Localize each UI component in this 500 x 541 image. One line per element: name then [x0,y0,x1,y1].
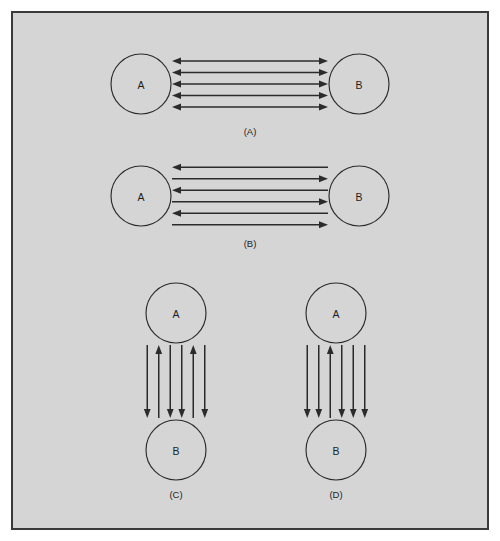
panel-d-bottom-node-label: B [332,445,339,457]
panel-a-caption: (A) [244,126,257,137]
panel-c-bottom-node-label: B [172,445,179,457]
panel-d-arrow-3-head-up-icon [327,345,334,354]
panel-c-caption: (C) [169,489,182,500]
panel-b-arrow-4-head-right-icon [319,198,328,205]
panel-d-caption: (D) [329,489,342,500]
panel-a: AB(A) [111,54,389,137]
panel-b-left-node-label: A [137,191,144,203]
panel-a-left-node-label: A [137,79,144,91]
panel-b-right-node-label: B [355,191,362,203]
panel-d-arrow-1-head-down-icon [304,409,311,418]
panel-d-arrow-4-head-down-icon [338,409,345,418]
panel-c-top-node-label: A [172,308,179,320]
panel-b-arrow-1-head-left-icon [172,164,181,171]
panel-c-arrow-1-head-down-icon [144,409,151,418]
panel-c-arrow-6-head-down-icon [201,409,208,418]
panel-a-arrow-5-head-left-icon [172,104,181,111]
panel-d-top-node-label: A [332,308,339,320]
panel-a-arrow-1-head-right-icon [319,58,328,65]
panel-b-caption: (B) [244,238,257,249]
panel-b-arrow-3-head-left-icon [172,187,181,194]
panel-b-arrow-2-head-right-icon [319,175,328,182]
panel-c-arrow-3-head-down-icon [167,409,174,418]
panel-d: AB(D) [304,283,368,500]
figure-canvas: AB(A) AB(B) AB(C) AB(D) [0,0,500,541]
panel-a-arrow-3-head-left-icon [172,81,181,88]
panel-d-arrow-6-head-down-icon [361,409,368,418]
panel-b: AB(B) [111,164,389,249]
panel-c-arrow-5-head-up-icon [190,345,197,354]
panel-c: AB(C) [144,283,208,500]
panel-a-arrow-3-head-right-icon [319,81,328,88]
panel-b-arrow-6-head-right-icon [319,221,328,228]
panel-a-arrow-2-head-left-icon [172,69,181,76]
figure-root: AB(A) AB(B) AB(C) AB(D) [0,0,500,541]
panel-a-arrow-4-head-left-icon [172,92,181,99]
panel-d-arrow-5-head-down-icon [350,409,357,418]
panel-d-arrow-2-head-down-icon [315,409,322,418]
panel-a-arrow-5-head-right-icon [319,104,328,111]
panel-c-arrow-4-head-down-icon [178,409,185,418]
panel-a-arrow-4-head-right-icon [319,92,328,99]
panel-a-arrow-2-head-right-icon [319,69,328,76]
panel-c-arrow-2-head-up-icon [155,345,162,354]
panel-b-arrow-5-head-left-icon [172,210,181,217]
panel-a-arrow-1-head-left-icon [172,58,181,65]
panel-a-right-node-label: B [355,79,362,91]
